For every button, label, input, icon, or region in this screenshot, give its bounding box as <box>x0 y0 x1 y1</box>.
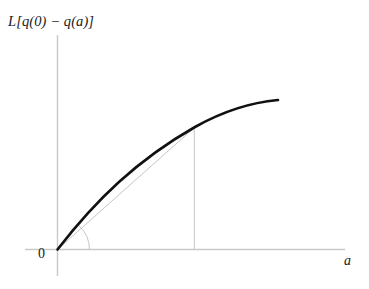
origin-label: 0 <box>38 247 45 261</box>
loss-curve <box>58 100 279 250</box>
y-axis-label: L[q(0) − q(a)] <box>8 14 94 29</box>
plot-canvas <box>0 0 369 289</box>
x-axis-label: a <box>344 254 351 268</box>
chord-line <box>58 127 196 250</box>
figure-container: L[q(0) − q(a)] a 0 <box>0 0 369 289</box>
